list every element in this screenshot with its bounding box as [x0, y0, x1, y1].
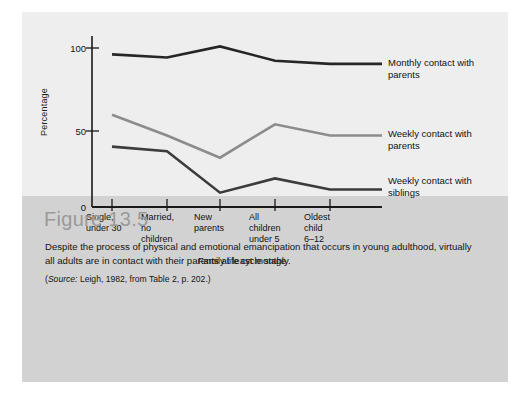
- x-tick-label-line: no: [141, 223, 197, 234]
- x-tick-label-line: Married,: [141, 212, 197, 223]
- legend-label-line: Weekly contact with: [388, 128, 508, 140]
- figure-number: Figure 13.5: [44, 208, 148, 231]
- figure-source: (Source: Leigh, 1982, from Table 2, p. 2…: [45, 274, 475, 284]
- figure-description: Despite the process of physical and emot…: [45, 240, 475, 268]
- series-line-weekly-contact-with-siblings: [112, 147, 382, 193]
- figure-card: Percentage 100 50 0 Single, under 30: [22, 12, 508, 382]
- legend-label-line: parents: [388, 140, 508, 152]
- x-tick-label-line: children: [249, 223, 305, 234]
- legend-label-line: siblings: [388, 187, 508, 199]
- source-citation: Leigh, 1982, from Table 2, p. 202.): [78, 274, 211, 284]
- x-tick-label-line: Oldest: [304, 212, 360, 223]
- legend-label-weekly-contact-with-siblings: Weekly contact with siblings: [388, 175, 508, 199]
- x-tick-label-line: child: [304, 223, 360, 234]
- legend-label-line: parents: [388, 69, 508, 81]
- series-line-monthly-contact-with-parents: [112, 46, 382, 64]
- legend-label-monthly-contact-with-parents: Monthly contact with parents: [388, 57, 508, 81]
- source-word: Source:: [48, 274, 78, 284]
- legend-label-weekly-contact-with-parents: Weekly contact with parents: [388, 128, 508, 152]
- legend-label-line: Monthly contact with: [388, 57, 508, 69]
- x-tick-label-line: parents: [194, 223, 250, 234]
- x-tick-label-line: New: [194, 212, 250, 223]
- x-tick-label-new-parents: New parents: [194, 212, 250, 234]
- legend-label-line: Weekly contact with: [388, 175, 508, 187]
- x-tick-label-line: All: [249, 212, 305, 223]
